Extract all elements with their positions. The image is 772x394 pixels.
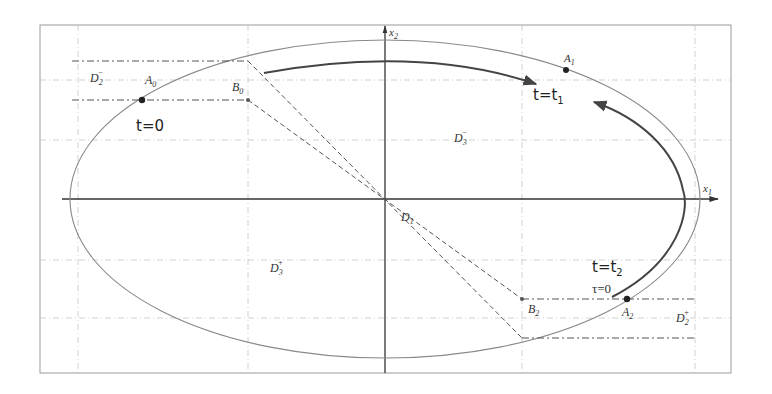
point-b0 xyxy=(246,98,250,102)
trajectory-arc-top xyxy=(264,61,536,84)
label-d1: D1 xyxy=(400,210,414,226)
point-a2 xyxy=(624,296,630,302)
label-tau0: τ=0 xyxy=(592,281,611,296)
label-a0: A0 xyxy=(144,73,156,89)
label-t1: t=t1 xyxy=(533,86,564,106)
point-a0 xyxy=(139,97,145,103)
label-d3-plus: D3+ xyxy=(269,258,283,277)
point-a1 xyxy=(563,67,569,73)
label-d3-minus: D3− xyxy=(453,128,467,147)
x2-axis-label: x2 xyxy=(388,26,398,41)
label-a2: A2 xyxy=(621,305,633,321)
point-b2 xyxy=(520,297,524,301)
label-b0: B0 xyxy=(232,80,243,96)
x1-axis-label: x1 xyxy=(702,182,712,197)
label-b2: B2 xyxy=(528,302,539,318)
label-t0: t=0 xyxy=(136,117,164,135)
label-d2-minus: D2− xyxy=(89,68,103,87)
label-d2-plus: D2+ xyxy=(675,308,689,327)
label-a1: A1 xyxy=(563,52,575,67)
diagram-canvas: x1 x2 D2− D3− D1 D3+ D2+ A0 B0 A1 B2 A2 … xyxy=(0,0,772,394)
label-t2: t=t2 xyxy=(592,258,623,278)
